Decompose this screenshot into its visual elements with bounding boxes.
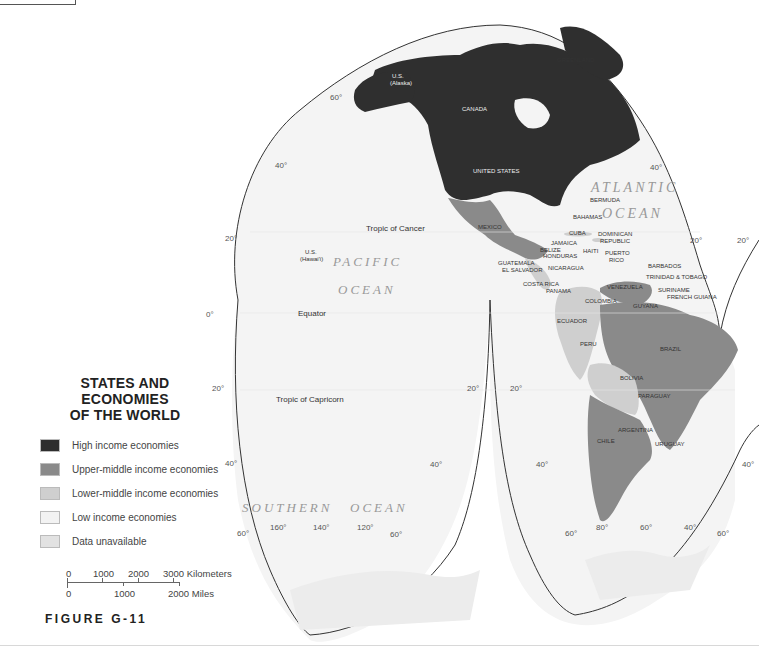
cuba-label: CUBA bbox=[569, 230, 586, 237]
tropic-of-capricorn-label: Tropic of Capricorn bbox=[276, 395, 344, 404]
legend-label: Low income economies bbox=[72, 512, 177, 523]
lat-20-label-east: 20° bbox=[690, 236, 702, 245]
united-states-label: UNITED STATES bbox=[473, 168, 519, 175]
lon-60-label: 60° bbox=[640, 523, 652, 532]
haiti-label: HAITI bbox=[583, 248, 598, 255]
interrupted-map-projection bbox=[0, 0, 759, 651]
suriname-label: SURINAME bbox=[658, 287, 690, 294]
scale-bar: 0 1000 2000 3000 Kilometers 0 1000 2000 … bbox=[66, 568, 266, 608]
bahamas-label: BAHAMAS bbox=[573, 214, 602, 221]
swatch-data-unavailable bbox=[40, 535, 60, 548]
lat-20s-label-mid: 20° bbox=[467, 384, 479, 393]
lat-20-label-far: 20° bbox=[737, 236, 749, 245]
lon-160-label: 160° bbox=[270, 523, 287, 532]
panama-label: PANAMA bbox=[546, 288, 571, 295]
pacific-ocean-label-2: OCEAN bbox=[338, 282, 396, 298]
legend-item-lower-middle-income: Lower-middle income economies bbox=[40, 481, 240, 505]
swatch-low-income bbox=[40, 511, 60, 524]
legend-label: Lower-middle income economies bbox=[72, 488, 218, 499]
barbados-label: BARBADOS bbox=[648, 263, 681, 270]
legend-title-line-2: OF THE WORLD bbox=[40, 407, 210, 423]
legend-label: High income economies bbox=[72, 440, 179, 451]
pacific-ocean-label-1: PACIFIC bbox=[333, 254, 402, 270]
scale-km-1000: 1000 bbox=[93, 568, 114, 579]
scale-mi-0: 0 bbox=[66, 588, 71, 599]
brazil-label: BRAZIL bbox=[660, 346, 681, 353]
bermuda-label: BERMUDA bbox=[590, 197, 620, 204]
legend-title-line-1: STATES AND ECONOMIES bbox=[40, 375, 210, 407]
legend: STATES AND ECONOMIES OF THE WORLD High i… bbox=[40, 375, 240, 553]
atlantic-ocean-label-2: OCEAN bbox=[602, 206, 663, 222]
honduras-label: HONDURAS bbox=[543, 253, 577, 260]
uruguay-label: URUGUAY bbox=[655, 441, 685, 448]
el-salvador-label: EL SALVADOR bbox=[502, 267, 543, 274]
legend-list: High income economies Upper-middle incom… bbox=[40, 433, 240, 553]
mexico-label: MEXICO bbox=[478, 224, 502, 231]
lat-40-label-east: 40° bbox=[650, 163, 662, 172]
lon-80-label: 80° bbox=[596, 523, 608, 532]
southern-ocean-label-1: SOUTHERN bbox=[242, 500, 332, 516]
tropic-of-cancer-label: Tropic of Cancer bbox=[366, 224, 425, 233]
scale-tick bbox=[123, 582, 124, 586]
southern-ocean-label-2: OCEAN bbox=[350, 500, 408, 516]
lat-40-label-west: 40° bbox=[275, 161, 287, 170]
lat-60-label: 60° bbox=[330, 93, 342, 102]
swatch-lower-middle-income bbox=[40, 487, 60, 500]
scale-mi-1000: 1000 bbox=[114, 588, 135, 599]
lat-40s-label-far: 40° bbox=[742, 460, 754, 469]
lat-0-label: 0° bbox=[206, 310, 214, 319]
chile-label: CHILE bbox=[597, 438, 615, 445]
swatch-high-income bbox=[40, 439, 60, 452]
legend-item-high-income: High income economies bbox=[40, 433, 240, 457]
us-hawaii-label-2: (Hawai'i) bbox=[300, 256, 323, 263]
lat-60s-label-far: 60° bbox=[717, 529, 729, 538]
puerto-rico-label-2: RICO bbox=[609, 257, 624, 264]
us-alaska-label-2: (Alaska) bbox=[390, 80, 412, 87]
dominican-label-2: REPUBLIC bbox=[600, 238, 630, 245]
scale-tick bbox=[179, 582, 180, 586]
us-hawaii-label-1: U.S. bbox=[305, 249, 317, 256]
legend-label: Upper-middle income economies bbox=[72, 464, 218, 475]
lobe-outline-east-south bbox=[740, 425, 759, 450]
peru-label: PERU bbox=[580, 341, 597, 348]
legend-title: STATES AND ECONOMIES OF THE WORLD bbox=[40, 375, 210, 423]
paraguay-label: PARAGUAY bbox=[638, 393, 670, 400]
guyana-label: GUYANA bbox=[633, 303, 658, 310]
lobe-outline-east bbox=[720, 240, 759, 335]
scale-mi-2000: 2000 Miles bbox=[168, 588, 214, 599]
swatch-upper-middle-income bbox=[40, 463, 60, 476]
lat-20s-label-east: 20° bbox=[510, 384, 522, 393]
lon-140-label: 140° bbox=[313, 523, 330, 532]
ecuador-label: ECUADOR bbox=[557, 318, 587, 325]
scale-tick bbox=[138, 578, 139, 582]
french-guiana-label: FRENCH GUIANA bbox=[667, 294, 717, 301]
legend-item-upper-middle-income: Upper-middle income economies bbox=[40, 457, 240, 481]
guatemala-label: GUATEMALA bbox=[498, 260, 535, 267]
lon-120-label: 120° bbox=[357, 523, 374, 532]
lat-40s-label-east: 40° bbox=[536, 460, 548, 469]
dominican-label-1: DOMINICAN bbox=[598, 231, 632, 238]
bottom-divider bbox=[0, 645, 759, 646]
jamaica-label: JAMAICA bbox=[551, 240, 577, 247]
lat-60s-label-east: 60° bbox=[565, 529, 577, 538]
lat-40s-label-mid: 40° bbox=[430, 460, 442, 469]
colombia-label: COLOMBIA bbox=[585, 298, 617, 305]
us-alaska-label-1: U.S. bbox=[392, 73, 404, 80]
lat-20-label-west: 20° bbox=[225, 234, 237, 243]
equator-label: Equator bbox=[298, 309, 326, 318]
atlantic-ocean-label-1: ATLANTIC bbox=[591, 180, 678, 196]
trinidad-tobago-label: TRINIDAD & TOBAGO bbox=[646, 274, 707, 281]
puerto-rico-label-1: PUERTO bbox=[605, 250, 630, 257]
lon-40-label: 40° bbox=[684, 523, 696, 532]
bolivia-label: BOLIVIA bbox=[620, 375, 643, 382]
figure-label: FIGURE G-11 bbox=[45, 612, 147, 626]
scale-tick bbox=[102, 578, 103, 582]
lat-60s-label-mid: 60° bbox=[390, 530, 402, 539]
argentina-label: ARGENTINA bbox=[618, 427, 653, 434]
greenland-label: GREENLAND bbox=[557, 57, 594, 64]
scale-tick bbox=[67, 578, 68, 588]
costa-rica-label: COSTA RICA bbox=[523, 281, 559, 288]
legend-label: Data unavailable bbox=[72, 536, 147, 547]
venezuela-label: VENEZUELA bbox=[607, 284, 643, 291]
scale-tick bbox=[173, 578, 174, 582]
